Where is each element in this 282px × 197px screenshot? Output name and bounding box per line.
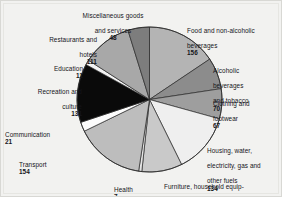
slice-label-communication: Communication 21 [5,123,81,146]
slice-label-transport-line1: Transport [19,161,47,168]
slice-label-recreation-line1: Recreation and [38,88,82,95]
slice-value-clothing: 67 [213,122,220,129]
slice-value-misc-goods: 48 [109,34,116,41]
slice-label-restaurants-line2: hotels [80,51,97,58]
slice-label-housing-line2: electricity, gas and [207,162,261,169]
slice-value-restaurants: 111 [87,58,97,65]
slice-label-restaurants-line1: Restaurants and [49,36,97,43]
pie-chart-figure: Miscellaneous goods and services 48 Food… [0,0,282,197]
slice-value-food: 156 [187,49,198,56]
slice-value-education: 11 [76,72,83,79]
slice-label-health: Health 7 [114,178,162,197]
slice-label-furniture: Furniture, household equip- ment and mai… [164,175,282,197]
slice-label-food-line1: Food and non-alcoholic [187,27,255,34]
slice-label-alcohol-line2: beverages [213,82,243,89]
slice-label-furniture-line1: Furniture, household equip- [164,183,244,190]
slice-label-alcohol-line1: Alcoholic [213,67,239,74]
slice-label-restaurants: Restaurants and hotels 111 [23,28,97,66]
slice-label-clothing-line2: footwear [213,115,238,122]
slice-value-health: 7 [114,193,118,197]
slice-label-clothing: Clothing and footwear 67 [213,92,282,130]
slice-label-recreation-line2: culture [62,103,82,110]
slice-label-misc-goods-line1: Miscellaneous goods [83,12,144,19]
slice-label-food: Food and non-alcoholic beverages 156 [187,19,281,57]
slice-label-housing-line1: Housing, water, [207,147,252,154]
slice-label-food-line2: beverages [187,42,217,49]
slice-value-transport: 154 [19,168,30,175]
slice-value-recreation: 131 [71,110,82,117]
slice-label-health-line1: Health [114,186,133,193]
slice-label-clothing-line1: Clothing and [213,100,250,107]
slice-label-misc-goods-line2: and services [95,27,132,34]
slice-label-communication-line1: Communication [5,131,50,138]
slice-label-recreation: Recreation and culture 131 [9,80,82,118]
slice-value-communication: 21 [5,138,12,145]
slice-label-transport: Transport 154 [19,153,93,176]
